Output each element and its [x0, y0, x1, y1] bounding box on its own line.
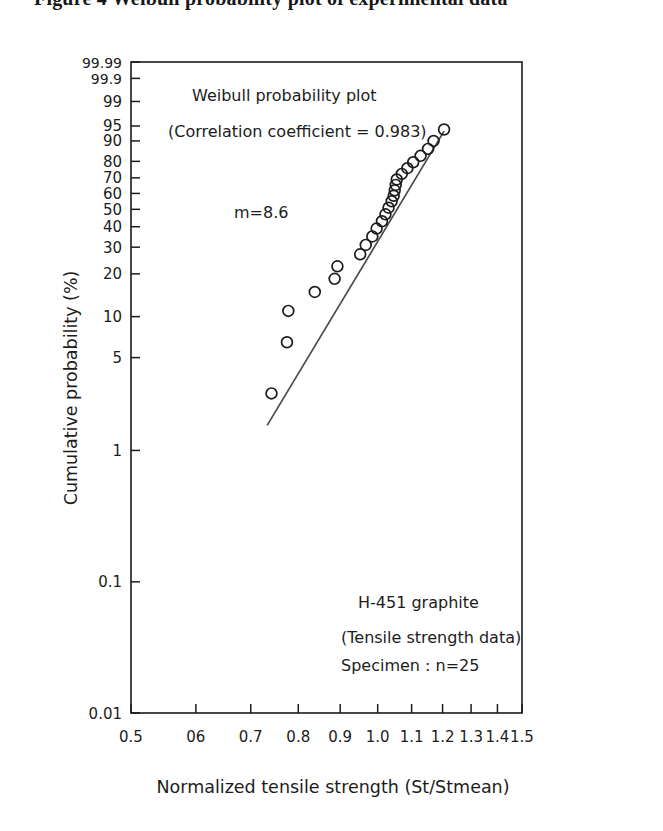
y-tick-label-0.1: 0.1	[98, 573, 122, 591]
x-tick-label-1.1: 1.1	[400, 728, 424, 746]
y-axis-ticks	[131, 62, 140, 713]
y-tick-label-99.9: 99.9	[91, 71, 122, 87]
y-tick-label-1: 1	[112, 442, 122, 460]
x-tick-label-0.7: 0.7	[239, 728, 263, 746]
data-point	[282, 337, 293, 348]
y-tick-label-40: 40	[103, 218, 122, 236]
plot-svg: 99.9999.99995908070605040302010510.10.01…	[0, 0, 663, 831]
x-tick-label-1.0: 1.0	[366, 728, 390, 746]
y-tick-label-50: 50	[103, 201, 122, 219]
data-point	[383, 202, 394, 213]
data-point	[423, 144, 434, 155]
y-tick-label-90: 90	[103, 132, 122, 150]
x-axis-title: Normalized tensile strength (St/Stmean)	[156, 777, 509, 797]
annotation-data-type: (Tensile strength data)	[341, 628, 521, 647]
annotation-weibull-modulus: m=8.6	[234, 203, 288, 222]
fit-line	[267, 131, 444, 425]
x-tick-label-0.8: 0.8	[286, 728, 310, 746]
data-point	[332, 261, 343, 272]
y-axis-tick-labels: 99.9999.99995908070605040302010510.10.01	[82, 55, 122, 723]
data-point	[329, 273, 340, 284]
x-axis-ticks	[131, 704, 522, 713]
data-point	[266, 388, 277, 399]
annotation-correlation: (Correlation coefficient = 0.983)	[168, 122, 427, 141]
y-tick-label-0.01: 0.01	[89, 705, 122, 723]
annotation-specimen-count: Specimen : n=25	[341, 656, 479, 675]
weibull-fit-line	[267, 131, 444, 425]
y-tick-label-80: 80	[103, 153, 122, 171]
x-tick-label-1.3: 1.3	[459, 728, 483, 746]
data-point	[439, 124, 450, 135]
y-tick-label-99.99: 99.99	[82, 55, 122, 71]
x-axis-tick-labels: 0.5060.70.80.91.01.11.21.31.41.5	[119, 728, 534, 746]
weibull-probability-plot-figure: 99.9999.99995908070605040302010510.10.01…	[0, 0, 663, 831]
annotation-plot-title: Weibull probability plot	[192, 86, 377, 105]
y-tick-label-5: 5	[112, 349, 122, 367]
plot-frame	[131, 62, 522, 713]
y-tick-label-99: 99	[103, 93, 122, 111]
x-tick-label-06: 06	[186, 728, 205, 746]
data-point-series	[266, 124, 449, 399]
data-point	[283, 305, 294, 316]
y-tick-label-30: 30	[103, 239, 122, 257]
y-tick-label-20: 20	[103, 265, 122, 283]
annotation-material: H-451 graphite	[358, 593, 479, 612]
x-tick-label-0.5: 0.5	[119, 728, 143, 746]
x-tick-label-0.9: 0.9	[328, 728, 352, 746]
x-tick-label-1.2: 1.2	[431, 728, 455, 746]
y-axis-title: Cumulative probability (%)	[61, 271, 81, 506]
y-tick-label-10: 10	[103, 308, 122, 326]
data-point	[309, 287, 320, 298]
x-tick-label-1.5: 1.5	[510, 728, 534, 746]
x-tick-label-1.4: 1.4	[486, 728, 510, 746]
